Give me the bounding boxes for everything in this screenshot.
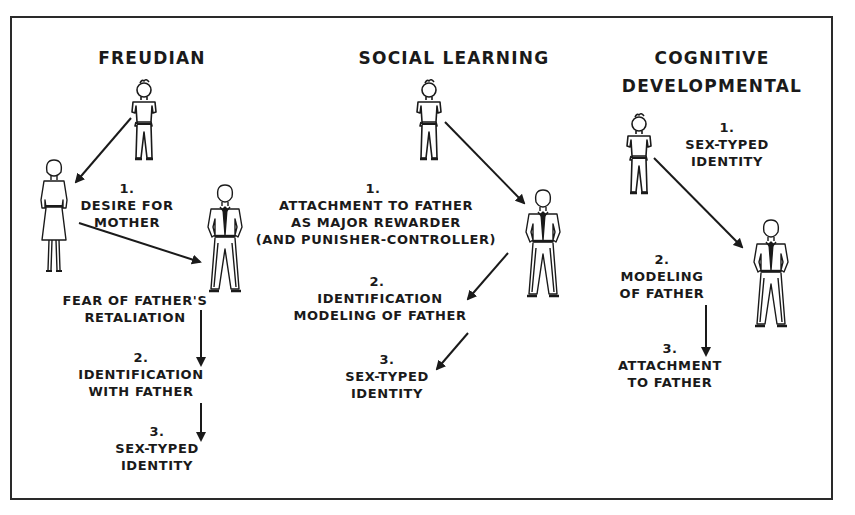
freudian-step-3-number: 3. [149, 423, 164, 440]
boy-figure-cognitive [627, 114, 651, 193]
father-figure-freudian [208, 185, 242, 291]
freudian-fear-text: FEAR OF FATHER'S RETALIATION [63, 292, 208, 326]
cognitive-step-1-text: SEX-TYPED IDENTITY [685, 136, 769, 170]
cognitive-step-1-number: 1. [719, 119, 734, 136]
mother-figure-freudian [41, 160, 67, 271]
arrow-boy-to-mother [76, 118, 131, 182]
father-figure-cognitive [754, 220, 788, 326]
cognitive-step-2-text: MODELING OF FATHER [620, 268, 705, 302]
social-step-1-number: 1. [365, 180, 380, 197]
cognitive-step-3-number: 3. [662, 340, 677, 357]
cognitive-step-2-number: 2. [654, 251, 669, 268]
social-step-3-number: 3. [379, 351, 394, 368]
column-title-freudian: FREUDIAN [98, 44, 206, 72]
arrow-modeling-to-identity [437, 333, 468, 369]
arrow-boy-to-father [445, 122, 524, 203]
freudian-step-3-text: SEX-TYPED IDENTITY [115, 440, 199, 474]
social-step-2-text: IDENTIFICATION MODELING OF FATHER [293, 290, 466, 324]
social-step-3-text: SEX-TYPED IDENTITY [345, 368, 429, 402]
cognitive-step-3-text: ATTACHMENT TO FATHER [618, 357, 722, 391]
freudian-step-1-text: DESIRE FOR MOTHER [80, 197, 173, 231]
column-title-social-learning: SOCIAL LEARNING [359, 44, 550, 72]
arrow-boy-to-father-cognitive [654, 158, 742, 247]
freudian-step-1-number: 1. [119, 180, 134, 197]
boy-figure-social [417, 80, 441, 159]
freudian-step-2-text: IDENTIFICATION WITH FATHER [78, 366, 203, 400]
boy-figure-freudian [132, 80, 156, 159]
freudian-step-2-number: 2. [133, 349, 148, 366]
social-step-2-number: 2. [369, 273, 384, 290]
social-step-1-text: ATTACHMENT TO FATHER AS MAJOR REWARDER (… [256, 197, 496, 248]
arrow-attachment-to-identification [468, 253, 508, 299]
father-figure-social [526, 190, 560, 296]
column-title-cognitive-developmental: COGNITIVE DEVELOPMENTAL [622, 44, 802, 100]
